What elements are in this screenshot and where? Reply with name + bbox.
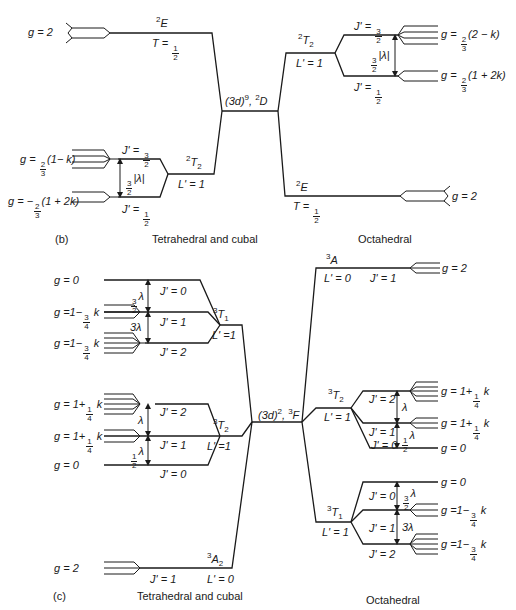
j-label: J' = 1 xyxy=(370,273,396,284)
j-label: J' = 0 xyxy=(160,286,186,297)
splitting-label: 32λ xyxy=(130,291,144,315)
splitting-label: 32λ xyxy=(402,488,416,512)
j-label: J' = 12 xyxy=(122,204,151,228)
j-label: J' = 1 xyxy=(150,574,176,585)
term-label-2E-right: 2E xyxy=(296,180,308,193)
g-label: g = −23(1 + 2k) xyxy=(8,196,79,220)
g-label: g = 2 xyxy=(442,263,467,274)
g-label: g = 2 xyxy=(54,563,79,574)
term-label-2T2-left: 2T2 xyxy=(186,155,202,171)
l-label: L' = 0 xyxy=(324,273,351,284)
g-label: g = 23(2 − k) xyxy=(441,29,500,53)
l-label: L' =1 xyxy=(212,330,236,341)
j-label: J' = 2 xyxy=(160,347,186,358)
t-label: T = 12 xyxy=(293,201,321,225)
j-label: J' = 2 xyxy=(369,549,395,560)
g-label: g = 2 xyxy=(28,27,53,38)
splitting-label: 32|λ| xyxy=(370,50,390,74)
j-label: J' = 12 xyxy=(354,82,383,106)
splitting-label: 32|λ| xyxy=(125,173,145,197)
splitting-label: 3λ xyxy=(130,322,142,333)
term-label-3T2-right: 3T2 xyxy=(328,388,344,404)
l-label: L' = 1 xyxy=(324,412,351,423)
j-label: J' = 32 xyxy=(354,21,383,45)
panel-caption: (c) xyxy=(53,591,66,602)
term-label-3T1-right: 3T1 xyxy=(327,505,343,521)
j-label: J' = 1 xyxy=(369,523,395,534)
j-label: J' = 0 xyxy=(160,469,186,480)
g-label: g = 1+14 k xyxy=(441,386,489,410)
l-label: L' =1 xyxy=(207,441,231,452)
j-label: J' = 1 xyxy=(369,427,395,438)
t-label: T = 12 xyxy=(152,38,180,62)
l-label: L' = 1 xyxy=(296,58,323,69)
term-label-3A2: 3A2 xyxy=(207,552,223,568)
j-label: J' = 32 xyxy=(122,145,151,169)
g-label: g = 1+14 k xyxy=(441,418,489,442)
g-label: g = 0 xyxy=(441,477,466,488)
g-label: g = 2 xyxy=(452,191,477,202)
g-label: g =1−34 k xyxy=(441,539,486,563)
center-config-label: (3d)2, 3F xyxy=(258,408,299,421)
term-label-3T1-left: 3T1 xyxy=(213,307,229,323)
term-label-3A: 3A xyxy=(326,253,338,266)
l-label: L' = 1 xyxy=(178,179,205,190)
splitting-label: λ xyxy=(138,415,143,426)
g-label: g =1−34 k xyxy=(54,338,99,362)
j-label: J' = 2 xyxy=(160,407,186,418)
g-label: g = 23(1− k) xyxy=(20,154,76,178)
j-label: J' = 0 xyxy=(371,440,397,451)
splitting-label: 3λ xyxy=(402,522,414,533)
g-label: g = 0 xyxy=(54,460,79,471)
splitting-label: λ xyxy=(402,402,407,413)
j-label: J' = 1 xyxy=(160,440,186,451)
term-label-2E-left: 2E xyxy=(156,16,168,29)
splitting-label: 12λ xyxy=(130,446,144,470)
center-config-label: (3d)9, 2D xyxy=(225,94,268,107)
energy-level-diagram xyxy=(0,0,516,610)
section-title: Octahedral xyxy=(366,595,420,606)
l-label: L' = 1 xyxy=(322,527,349,538)
panel-b-lines xyxy=(66,23,450,206)
g-label: g = 23(1 + 2k) xyxy=(441,70,506,94)
term-label-3T2-left: 3T2 xyxy=(213,418,229,434)
section-title: Tetrahedral and cubal xyxy=(152,234,258,245)
l-label: L' = 0 xyxy=(207,574,234,585)
j-label: J' = 2 xyxy=(369,394,395,405)
g-label: g = 0 xyxy=(54,275,79,286)
g-label: g = 0 xyxy=(441,443,466,454)
g-label: g =1−34 k xyxy=(441,505,486,529)
panel-caption: (b) xyxy=(55,234,68,245)
g-label: g = 1+14 k xyxy=(54,399,102,423)
j-label: J' = 1 xyxy=(160,317,186,328)
section-title: Octahedral xyxy=(358,234,412,245)
g-label: g =1−34 k xyxy=(54,307,99,331)
g-label: g = 1+14 k xyxy=(54,431,102,455)
term-label-2T2-right: 2T2 xyxy=(298,33,314,49)
j-label: J' = 0 xyxy=(369,491,395,502)
splitting-label: 12λ xyxy=(401,430,415,454)
section-title: Tetrahedral and cubal xyxy=(137,591,243,602)
